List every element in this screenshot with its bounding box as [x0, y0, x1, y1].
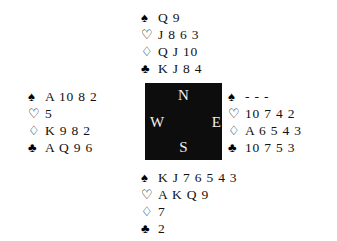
hand-north-spades-row: ♠ Q 9 [141, 9, 202, 26]
hand-north-diamonds-cards: Q J 10 [158, 43, 198, 60]
hand-north-clubs-cards: K J 8 4 [158, 60, 202, 77]
diamond-icon: ♢ [28, 122, 45, 139]
hand-east-clubs-row: ♣ 10 7 5 3 [228, 139, 302, 156]
hand-west-spades-row: ♠ A 10 8 2 [28, 88, 98, 105]
hand-north-diamonds-row: ♢ Q J 10 [141, 43, 202, 60]
hand-west-clubs-cards: A Q 9 6 [45, 139, 93, 156]
hand-north-spades-cards: Q 9 [158, 9, 180, 26]
compass-box: N W E S [145, 83, 222, 160]
hand-west-spades-cards: A 10 8 2 [45, 88, 98, 105]
hand-east-diamonds-cards: A 6 5 4 3 [245, 122, 302, 139]
club-icon: ♣ [228, 139, 245, 156]
hand-south-spades-cards: K J 7 6 5 4 3 [158, 169, 237, 186]
hand-south-hearts-cards: A K Q 9 [158, 186, 209, 203]
hand-west-diamonds-cards: K 9 8 2 [45, 122, 91, 139]
hand-west: ♠ A 10 8 2 ♡ 5 ♢ K 9 8 2 ♣ A Q 9 6 [28, 88, 98, 156]
hand-south-spades-row: ♠ K J 7 6 5 4 3 [141, 169, 237, 186]
heart-icon: ♡ [28, 105, 45, 122]
hand-east: ♠ - - - ♡ 10 7 4 2 ♢ A 6 5 4 3 ♣ 10 7 5 … [228, 88, 302, 156]
hand-south-diamonds-cards: 7 [158, 203, 166, 220]
spade-icon: ♠ [228, 88, 245, 105]
compass-label-south: S [179, 140, 187, 155]
hand-east-spades-row: ♠ - - - [228, 88, 302, 105]
hand-south-clubs-cards: 2 [158, 220, 166, 237]
diamond-icon: ♢ [141, 203, 158, 220]
hand-east-spades-cards: - - - [245, 88, 269, 105]
hand-south: ♠ K J 7 6 5 4 3 ♡ A K Q 9 ♢ 7 ♣ 2 [141, 169, 237, 237]
hand-north-clubs-row: ♣ K J 8 4 [141, 60, 202, 77]
hand-south-hearts-row: ♡ A K Q 9 [141, 186, 237, 203]
hand-west-diamonds-row: ♢ K 9 8 2 [28, 122, 98, 139]
compass-label-east: E [212, 114, 221, 129]
heart-icon: ♡ [228, 105, 245, 122]
hand-north: ♠ Q 9 ♡ J 8 6 3 ♢ Q J 10 ♣ K J 8 4 [141, 9, 202, 77]
hand-east-clubs-cards: 10 7 5 3 [245, 139, 295, 156]
hand-north-hearts-row: ♡ J 8 6 3 [141, 26, 202, 43]
club-icon: ♣ [141, 60, 158, 77]
hand-south-clubs-row: ♣ 2 [141, 220, 237, 237]
spade-icon: ♠ [28, 88, 45, 105]
hand-north-hearts-cards: J 8 6 3 [158, 26, 199, 43]
compass-label-west: W [150, 114, 164, 129]
club-icon: ♣ [28, 139, 45, 156]
hand-east-hearts-cards: 10 7 4 2 [245, 105, 295, 122]
diamond-icon: ♢ [141, 43, 158, 60]
heart-icon: ♡ [141, 26, 158, 43]
hand-west-hearts-cards: 5 [45, 105, 53, 122]
hand-east-diamonds-row: ♢ A 6 5 4 3 [228, 122, 302, 139]
heart-icon: ♡ [141, 186, 158, 203]
spade-icon: ♠ [141, 169, 158, 186]
compass-label-north: N [178, 88, 189, 103]
hand-west-clubs-row: ♣ A Q 9 6 [28, 139, 98, 156]
bridge-deal-diagram: ♠ Q 9 ♡ J 8 6 3 ♢ Q J 10 ♣ K J 8 4 ♠ A 1… [0, 0, 337, 241]
spade-icon: ♠ [141, 9, 158, 26]
hand-west-hearts-row: ♡ 5 [28, 105, 98, 122]
club-icon: ♣ [141, 220, 158, 237]
hand-east-hearts-row: ♡ 10 7 4 2 [228, 105, 302, 122]
hand-south-diamonds-row: ♢ 7 [141, 203, 237, 220]
diamond-icon: ♢ [228, 122, 245, 139]
